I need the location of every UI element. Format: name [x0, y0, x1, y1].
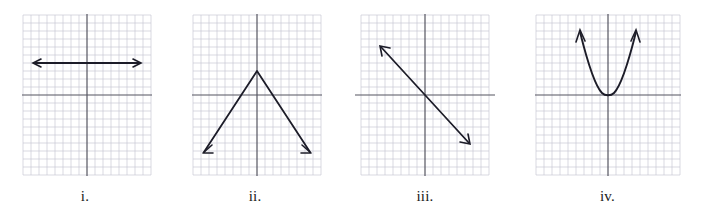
graph-label-iii: iii. — [340, 188, 510, 205]
axes-ii — [192, 14, 322, 176]
graph-cell-i: i. — [0, 0, 170, 216]
graph-ii-plot — [192, 14, 322, 176]
graph-figure-row: i. — [0, 0, 705, 216]
graph-cell-iv: iv. — [510, 0, 705, 216]
graph-label-iv: iv. — [510, 188, 705, 205]
axes-i — [22, 14, 152, 176]
graph-i-plot — [22, 14, 152, 176]
graph-iv-plot — [535, 14, 681, 176]
graph-iii-plot — [355, 14, 495, 176]
graph-label-i: i. — [0, 188, 170, 205]
graph-cell-ii: ii. — [170, 0, 340, 216]
graph-cell-iii: iii. — [340, 0, 510, 216]
graph-label-ii: ii. — [170, 188, 340, 205]
